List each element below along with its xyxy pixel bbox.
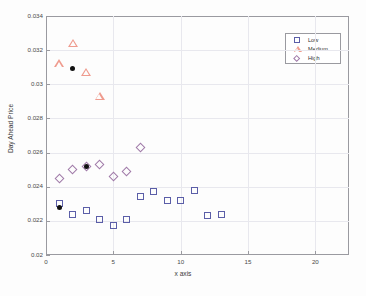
x-axis-tick-label: 0 <box>31 259 61 265</box>
y-axis-title: Day Ahead Price <box>7 79 14 179</box>
legend-square-icon <box>294 37 300 43</box>
data-point-square <box>177 197 184 204</box>
y-axis-tick <box>46 16 50 17</box>
data-point-highlight <box>84 164 89 169</box>
y-axis-tick <box>46 221 50 222</box>
data-point-square <box>137 193 144 200</box>
data-point-triangle <box>54 59 64 67</box>
y-axis-tick <box>46 187 50 188</box>
x-axis-tick-label: 20 <box>300 259 330 265</box>
y-gridline <box>46 153 349 154</box>
data-point-triangle <box>95 92 105 100</box>
y-axis-tick-label: 0.034 <box>1 13 43 19</box>
y-axis-tick-label: 0.028 <box>1 115 43 121</box>
y-axis-tick <box>46 255 50 256</box>
data-point-square <box>191 187 198 194</box>
data-point-triangle <box>68 39 78 47</box>
y-axis-tick <box>46 118 50 119</box>
x-gridline <box>315 16 316 255</box>
y-gridline <box>46 221 349 222</box>
y-gridline <box>46 118 349 119</box>
data-point-square <box>164 197 171 204</box>
x-axis-title: x axis <box>0 270 366 277</box>
x-axis-tick <box>181 251 182 255</box>
y-gridline <box>46 84 349 85</box>
x-axis-tick-label: 10 <box>166 259 196 265</box>
y-axis-tick <box>46 153 50 154</box>
legend-item-label: High <box>308 54 320 63</box>
x-gridline <box>181 16 182 255</box>
y-axis-tick-label: 0.026 <box>1 149 43 155</box>
data-point-square <box>218 211 225 218</box>
x-axis-tick <box>46 251 47 255</box>
x-axis-tick <box>113 251 114 255</box>
data-point-highlight <box>57 205 62 210</box>
legend-item-low[interactable]: Low <box>286 36 342 45</box>
legend[interactable]: LowMediumHigh <box>285 33 341 64</box>
legend-item-label: Low <box>308 36 318 45</box>
data-point-square <box>123 216 130 223</box>
x-gridline <box>248 16 249 255</box>
data-point-square <box>204 212 211 219</box>
data-point-square <box>110 222 117 229</box>
y-axis-tick <box>46 84 50 85</box>
y-axis-tick-label: 0.02 <box>1 252 43 258</box>
y-axis-tick <box>46 50 50 51</box>
y-axis-tick-label: 0.024 <box>1 183 43 189</box>
x-axis-tick <box>248 251 249 255</box>
x-gridline <box>113 16 114 255</box>
y-axis-tick-label: 0.032 <box>1 47 43 53</box>
data-point-square <box>96 216 103 223</box>
x-axis-tick-label: 5 <box>98 259 128 265</box>
y-gridline <box>46 50 349 51</box>
legend-diamond-icon <box>293 54 301 62</box>
data-point-square <box>150 188 157 195</box>
data-point-triangle <box>81 68 91 76</box>
data-point-square <box>69 211 76 218</box>
y-axis-tick-label: 0.022 <box>1 217 43 223</box>
data-point-square <box>83 207 90 214</box>
x-axis-tick-label: 15 <box>233 259 263 265</box>
y-axis-tick-label: 0.03 <box>1 81 43 87</box>
figure-canvas: Day Ahead Price x axis LowMediumHigh 0.0… <box>0 0 366 296</box>
legend-item-high[interactable]: High <box>286 54 342 63</box>
x-axis-tick <box>315 251 316 255</box>
